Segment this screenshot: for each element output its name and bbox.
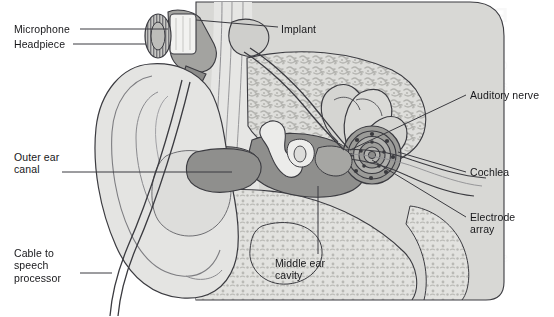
label-middle-ear-cavity: Middle ear cavity [275, 257, 325, 282]
label-implant: Implant [281, 23, 316, 35]
label-electrode-array: Electrode array [470, 211, 515, 236]
headpiece-coil [145, 14, 171, 58]
figure-canvas: Real-Time Captioning/Interpret Ct of the… [0, 0, 554, 317]
label-cochlea: Cochlea [470, 166, 509, 178]
label-cable-to-speech-processor: Cable to speech processor [14, 247, 61, 284]
label-microphone: Microphone [14, 23, 70, 35]
ear-canal [186, 149, 261, 193]
label-auditory-nerve: Auditory nerve [470, 89, 539, 101]
cochlea-spiral [343, 126, 401, 184]
label-outer-ear-canal: Outer ear canal [14, 151, 59, 176]
microphone-unit [170, 14, 196, 54]
label-headpiece: Headpiece [14, 38, 65, 50]
